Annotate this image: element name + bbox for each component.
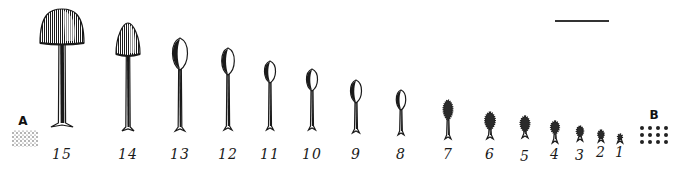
specimen-stage-7 [443,100,452,139]
stage-label-1: 1 [615,144,625,160]
panel-b-spore-dots [640,126,668,144]
stage-label-7: 7 [443,146,453,162]
specimen-stage-12 [222,48,235,130]
stage-label-12: 12 [218,146,238,162]
stage-label-5: 5 [520,148,530,164]
specimen-stage-4 [551,121,560,143]
stage-label-2: 2 [596,144,606,160]
specimen-stage-14 [116,23,140,131]
stage-label-6: 6 [485,146,495,162]
specimen-stage-15 [40,9,84,127]
stage-label-11: 11 [260,146,280,162]
scale-bar [555,20,609,22]
stage-label-10: 10 [302,146,322,162]
specimen-stage-9 [350,80,361,133]
stage-label-13: 13 [170,146,190,162]
specimen-stage-10 [306,69,317,130]
specimen-stage-13 [173,38,188,131]
stage-label-8: 8 [396,146,406,162]
stage-label-9: 9 [351,146,361,162]
specimen-stage-1 [617,134,622,143]
stage-label-15: 15 [52,146,72,162]
stage-label-4: 4 [550,146,560,162]
specimen-stage-8 [396,90,405,135]
specimen-group [40,9,623,143]
panel-a-spore-patch [12,130,38,147]
mushroom-development-figure: A B 151413121110987654321 [0,0,685,170]
specimen-stage-3 [576,126,583,141]
specimen-stage-5 [520,116,529,138]
panel-label-b: B [649,108,658,122]
specimen-stage-11 [264,61,275,130]
specimen-stage-6 [485,112,495,139]
stage-label-14: 14 [118,146,138,162]
panel-label-a: A [18,114,27,128]
stage-label-3: 3 [575,147,585,163]
specimen-drawings [0,0,685,170]
specimen-stage-2 [598,130,604,142]
